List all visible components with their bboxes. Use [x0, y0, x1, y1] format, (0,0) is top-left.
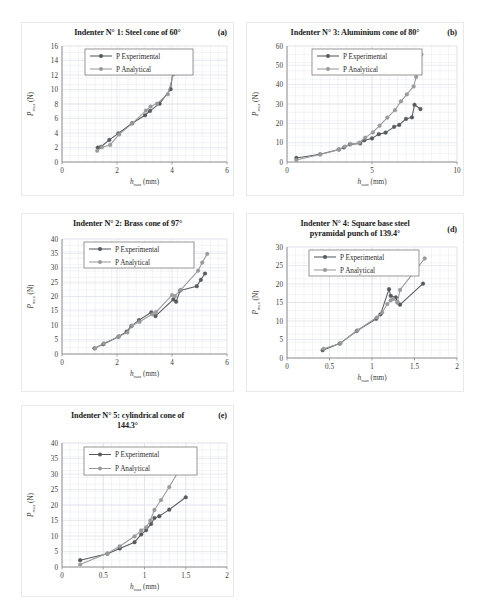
svg-text:2: 2	[54, 144, 58, 152]
svg-text:2: 2	[225, 572, 229, 580]
chart-title-b: Indenter N° 3: Aluminium cone of 80° (b)	[247, 23, 463, 38]
svg-text:35: 35	[51, 250, 59, 258]
svg-text:60: 60	[276, 43, 284, 51]
svg-text:6: 6	[225, 167, 229, 175]
svg-text:P Experimental: P Experimental	[343, 53, 387, 61]
svg-text:hmax (mm): hmax (mm)	[357, 177, 387, 187]
svg-text:15: 15	[51, 517, 59, 525]
chart-tag-a: (a)	[218, 28, 227, 38]
chart-panel-a: Indenter N° 1: Steel cone of 60° (a) 024…	[21, 22, 234, 196]
svg-text:30: 30	[276, 244, 284, 252]
svg-text:4: 4	[170, 167, 174, 175]
chart-plot-d: 05101520253000.511.52Pmax (N)hmax (mm)P …	[247, 239, 463, 392]
svg-text:6: 6	[54, 115, 58, 123]
chart-title-c-line1: Indenter N° 2: Brass cone of 97°	[73, 219, 182, 228]
chart-plot-e: 051015202530354000.511.52Pmax (N)hmax (m…	[22, 431, 233, 607]
svg-text:4: 4	[170, 359, 174, 367]
svg-text:0: 0	[54, 159, 58, 167]
svg-text:2: 2	[115, 359, 119, 367]
chart-title-e-line1: Indenter N° 5: cylindrical cone of	[71, 411, 184, 420]
svg-text:0: 0	[60, 359, 64, 367]
chart-panel-b: Indenter N° 3: Aluminium cone of 80° (b)…	[246, 22, 464, 196]
svg-text:1.5: 1.5	[410, 363, 419, 371]
svg-text:1: 1	[370, 363, 374, 371]
svg-text:hmax (mm): hmax (mm)	[130, 369, 160, 379]
svg-text:0: 0	[279, 355, 283, 363]
svg-text:hmax (mm): hmax (mm)	[130, 582, 160, 592]
svg-text:8: 8	[54, 101, 58, 109]
svg-text:0: 0	[60, 167, 64, 175]
svg-text:P Analytical: P Analytical	[116, 66, 151, 74]
chart-plot-c: 05101520253035400246Pmax (N)hmax (mm)P E…	[22, 229, 233, 392]
svg-text:0: 0	[285, 167, 289, 175]
svg-text:hmax (mm): hmax (mm)	[357, 373, 387, 383]
svg-text:1: 1	[143, 572, 147, 580]
svg-text:10: 10	[51, 322, 59, 330]
chart-title-d-line1: Indenter N° 4: Square base steel	[300, 219, 409, 228]
svg-text:6: 6	[225, 359, 229, 367]
svg-text:15: 15	[276, 299, 284, 307]
svg-text:hmax (mm): hmax (mm)	[130, 177, 160, 187]
svg-text:P Analytical: P Analytical	[340, 267, 375, 275]
svg-text:35: 35	[51, 455, 59, 463]
svg-text:P Analytical: P Analytical	[115, 465, 150, 473]
chart-panel-d: Indenter N° 4: Square base steel pyramid…	[246, 213, 464, 392]
chart-tag-e: (e)	[218, 411, 227, 421]
svg-text:0.5: 0.5	[99, 572, 108, 580]
svg-text:2: 2	[455, 363, 459, 371]
svg-text:20: 20	[51, 293, 59, 301]
svg-text:Pmax (N): Pmax (N)	[26, 492, 36, 518]
svg-text:30: 30	[51, 264, 59, 272]
figure-page: Indenter N° 1: Steel cone of 60° (a) 024…	[0, 0, 483, 612]
svg-text:0: 0	[54, 564, 58, 572]
svg-text:0.5: 0.5	[325, 363, 334, 371]
svg-text:5: 5	[370, 167, 374, 175]
chart-title-d: Indenter N° 4: Square base steel pyramid…	[247, 214, 463, 239]
svg-text:Pmax (N): Pmax (N)	[26, 91, 36, 117]
svg-text:25: 25	[51, 486, 59, 494]
svg-text:10: 10	[51, 86, 59, 94]
svg-text:0: 0	[60, 572, 64, 580]
chart-title-d-line2: pyramidal punch of 139.4°	[247, 229, 463, 239]
svg-text:Pmax (N): Pmax (N)	[251, 91, 261, 117]
svg-text:40: 40	[51, 440, 59, 448]
chart-plot-a: 02468101214160246Pmax (N)hmax (mm)P Expe…	[22, 38, 233, 196]
chart-title-b-line1: Indenter N° 3: Aluminium cone of 80°	[291, 28, 420, 37]
svg-text:5: 5	[54, 336, 58, 344]
chart-panel-e: Indenter N° 5: cylindrical cone of 144.3…	[21, 405, 234, 597]
chart-tag-d: (d)	[447, 225, 457, 235]
svg-text:0: 0	[54, 351, 58, 359]
svg-text:P Experimental: P Experimental	[340, 254, 384, 262]
svg-text:16: 16	[51, 43, 59, 51]
svg-text:5: 5	[54, 548, 58, 556]
chart-title-a-line1: Indenter N° 1: Steel cone of 60°	[74, 28, 180, 37]
svg-text:2: 2	[115, 167, 119, 175]
svg-text:10: 10	[276, 318, 284, 326]
svg-text:Pmax (N): Pmax (N)	[251, 290, 261, 316]
svg-text:0: 0	[285, 363, 289, 371]
svg-text:P Experimental: P Experimental	[115, 451, 159, 459]
svg-text:10: 10	[51, 533, 59, 541]
svg-text:P Experimental: P Experimental	[116, 53, 160, 61]
svg-text:4: 4	[54, 130, 58, 138]
svg-text:20: 20	[276, 281, 284, 289]
svg-text:10: 10	[276, 139, 284, 147]
svg-text:25: 25	[276, 262, 284, 270]
svg-text:1.5: 1.5	[181, 572, 190, 580]
chart-title-e-line2: 144.3°	[22, 421, 233, 431]
svg-text:40: 40	[51, 236, 59, 244]
chart-title-a: Indenter N° 1: Steel cone of 60° (a)	[22, 23, 233, 38]
svg-text:0: 0	[279, 159, 283, 167]
svg-text:Pmax (N): Pmax (N)	[26, 284, 36, 310]
chart-title-e: Indenter N° 5: cylindrical cone of 144.3…	[22, 406, 233, 431]
chart-tag-b: (b)	[447, 28, 457, 38]
svg-text:30: 30	[276, 101, 284, 109]
svg-text:10: 10	[453, 167, 461, 175]
svg-text:40: 40	[276, 81, 284, 89]
svg-text:5: 5	[279, 336, 283, 344]
svg-text:14: 14	[51, 57, 59, 65]
svg-text:50: 50	[276, 62, 284, 70]
svg-text:P Experimental: P Experimental	[115, 246, 159, 254]
svg-text:30: 30	[51, 471, 59, 479]
svg-text:25: 25	[51, 279, 59, 287]
